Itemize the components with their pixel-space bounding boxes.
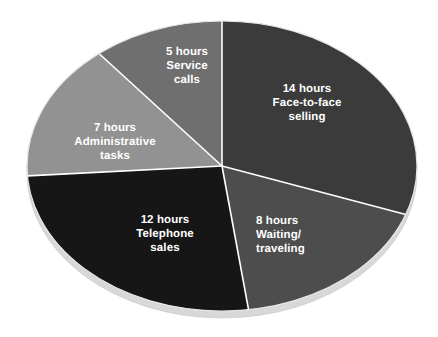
- pie-chart-graphic: [0, 0, 438, 337]
- pie-chart: 14 hours Face-to-face selling 8 hours Wa…: [0, 0, 438, 337]
- pie-slice-telephone-sales: [27, 166, 248, 311]
